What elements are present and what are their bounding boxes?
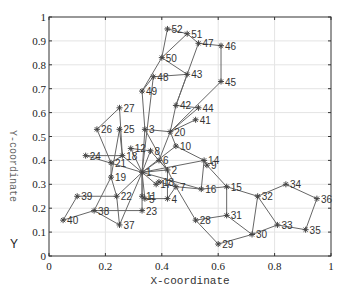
y-tick-label: 0.2 bbox=[32, 202, 46, 214]
node-label: 25 bbox=[124, 124, 136, 135]
node-label: 31 bbox=[231, 210, 243, 221]
graph-node: 3 bbox=[142, 124, 155, 135]
node-label: 26 bbox=[101, 124, 113, 135]
graph-node: 7 bbox=[173, 182, 186, 193]
y-tick-label: 0.8 bbox=[32, 59, 46, 71]
node-label: 16 bbox=[205, 184, 217, 195]
node-label: 4 bbox=[171, 194, 177, 205]
node-label: 18 bbox=[126, 151, 138, 162]
asterisk-marker-icon bbox=[164, 167, 170, 173]
node-label: 49 bbox=[146, 86, 158, 97]
x-tick-label: 0 bbox=[46, 260, 52, 272]
y-tick-label: 0.4 bbox=[32, 154, 46, 166]
asterisk-marker-icon bbox=[114, 193, 120, 199]
asterisk-marker-icon bbox=[60, 217, 66, 223]
graph-node: 49 bbox=[139, 86, 158, 97]
asterisk-marker-icon bbox=[218, 79, 224, 85]
graph-node: 6 bbox=[156, 155, 169, 166]
x-tick-label: 0.2 bbox=[99, 260, 113, 272]
node-label: 50 bbox=[166, 53, 178, 64]
node-label: 1 bbox=[146, 167, 152, 178]
node-label: 36 bbox=[321, 194, 333, 205]
node-label: 37 bbox=[124, 220, 136, 231]
node-label: 8 bbox=[155, 146, 161, 157]
asterisk-marker-icon bbox=[193, 117, 199, 123]
asterisk-marker-icon bbox=[274, 222, 280, 228]
graph-node: 8 bbox=[148, 146, 161, 157]
graph-node: 52 bbox=[164, 24, 183, 35]
node-label: 30 bbox=[256, 229, 268, 240]
node-label: 51 bbox=[191, 29, 203, 40]
graph-node: 47 bbox=[195, 38, 214, 49]
node-label: 45 bbox=[225, 77, 237, 88]
graph-node: 51 bbox=[184, 29, 203, 40]
node-label: 42 bbox=[180, 100, 192, 111]
graph-node: 36 bbox=[314, 194, 333, 205]
y-tick-label: 0 bbox=[41, 250, 47, 262]
node-label: 24 bbox=[90, 151, 102, 162]
x-tick-label: 0.8 bbox=[268, 260, 282, 272]
graph-node: 28 bbox=[193, 215, 212, 226]
node-label: 21 bbox=[115, 158, 127, 169]
asterisk-marker-icon bbox=[83, 153, 89, 159]
graph-node: 41 bbox=[193, 115, 212, 126]
graph-node: 30 bbox=[249, 229, 268, 240]
graph-node: 4 bbox=[164, 194, 177, 205]
asterisk-marker-icon bbox=[195, 105, 201, 111]
node-label: 11 bbox=[146, 191, 157, 202]
node-label: 10 bbox=[180, 141, 192, 152]
graph-node: 2 bbox=[164, 165, 177, 176]
y-axis-symbol: Y bbox=[10, 237, 18, 251]
y-tick-label: 1 bbox=[41, 11, 47, 23]
node-label: 52 bbox=[171, 24, 183, 35]
graph-node: 42 bbox=[173, 100, 192, 111]
graph-node: 17 bbox=[153, 179, 172, 190]
node-label: 23 bbox=[146, 206, 158, 217]
node-label: 15 bbox=[231, 182, 243, 193]
asterisk-marker-icon bbox=[201, 157, 207, 163]
node-label: 38 bbox=[98, 206, 110, 217]
graph-node: 22 bbox=[114, 191, 133, 202]
asterisk-marker-icon bbox=[198, 186, 204, 192]
graph-node: 40 bbox=[60, 215, 79, 226]
asterisk-marker-icon bbox=[255, 193, 261, 199]
x-axis-label: X-coordinate bbox=[150, 275, 229, 287]
asterisk-marker-icon bbox=[117, 126, 123, 132]
asterisk-marker-icon bbox=[164, 196, 170, 202]
y-tick-label: 0.6 bbox=[32, 107, 46, 119]
node-label: 40 bbox=[67, 215, 79, 226]
y-tick-label: 0.1 bbox=[32, 226, 46, 238]
graph-node: 16 bbox=[198, 184, 217, 195]
graph-edge bbox=[176, 187, 196, 220]
x-tick-label: 1 bbox=[328, 260, 334, 272]
node-label: 28 bbox=[200, 215, 212, 226]
node-label: 33 bbox=[281, 220, 293, 231]
y-axis-label: Y-coordinate bbox=[7, 130, 18, 202]
asterisk-marker-icon bbox=[184, 71, 190, 77]
node-label: 34 bbox=[290, 179, 302, 190]
asterisk-marker-icon bbox=[94, 126, 100, 132]
y-tick-label: 0.3 bbox=[32, 178, 46, 190]
graph-node: 25 bbox=[117, 124, 136, 135]
node-label: 2 bbox=[171, 165, 177, 176]
graph-node: 10 bbox=[173, 141, 192, 152]
node-label: 43 bbox=[191, 69, 203, 80]
y-tick-label: 0.5 bbox=[32, 131, 46, 143]
asterisk-marker-icon bbox=[167, 129, 173, 135]
node-label: 19 bbox=[115, 172, 127, 183]
node-label: 48 bbox=[157, 72, 169, 83]
node-label: 46 bbox=[225, 41, 237, 52]
asterisk-marker-icon bbox=[108, 174, 114, 180]
asterisk-marker-icon bbox=[283, 181, 289, 187]
y-tick-label: 0.7 bbox=[32, 83, 46, 95]
node-label: 44 bbox=[202, 103, 214, 114]
node-label: 32 bbox=[262, 191, 274, 202]
graph-node: 34 bbox=[283, 179, 302, 190]
node-label: 20 bbox=[174, 127, 186, 138]
x-tick-label: 0.4 bbox=[155, 260, 169, 272]
node-label: 35 bbox=[310, 225, 322, 236]
x-tick-label: 0.6 bbox=[211, 260, 225, 272]
graph-node: 43 bbox=[184, 69, 203, 80]
node-label: 39 bbox=[81, 191, 93, 202]
node-label: 6 bbox=[163, 155, 169, 166]
